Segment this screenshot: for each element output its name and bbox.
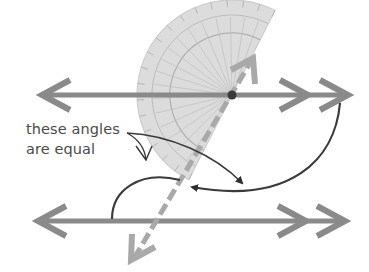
protractor (104, 0, 275, 180)
lower-parallel-line (38, 206, 345, 236)
annotation-line-1: these angles (26, 119, 120, 139)
annotation-label: these angles are equal (26, 119, 120, 159)
intersection-dot (228, 91, 237, 100)
annotation-line-2: are equal (26, 139, 120, 159)
